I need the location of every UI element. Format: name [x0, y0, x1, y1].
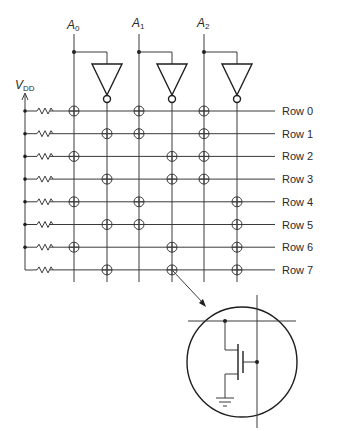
transistor-site	[102, 129, 112, 139]
transistor-site	[199, 151, 209, 161]
row-label-4: Row 4	[282, 196, 313, 208]
transistor-site	[134, 106, 144, 116]
transistor-site	[199, 106, 209, 116]
resistor-icon	[33, 153, 53, 159]
transistor-site	[232, 242, 242, 252]
resistor-icon	[33, 108, 53, 114]
inverters	[72, 50, 252, 103]
row-label-0: Row 0	[282, 105, 313, 117]
transistor-site	[69, 106, 79, 116]
row-decoder-diagram: VDD A0 A1 A2 Row 0Row 1Row 2Row 3Row 4Ro…	[0, 0, 343, 431]
transistor-sites	[69, 106, 242, 275]
transistor-site	[134, 197, 144, 207]
magnifier-detail	[187, 295, 297, 428]
inverter-icon	[222, 64, 252, 95]
junction-dot	[23, 155, 27, 159]
resistor-icon	[33, 244, 53, 250]
transistor-site	[167, 242, 177, 252]
transistor-site	[232, 220, 242, 230]
inverter-icon	[157, 64, 187, 95]
transistor-site	[232, 197, 242, 207]
transistor-site	[102, 174, 112, 184]
junction-dot	[23, 177, 27, 181]
address-label-a2: A2	[196, 16, 210, 31]
address-label-a0: A0	[66, 18, 80, 33]
vdd-label: VDD	[15, 78, 35, 93]
transistor-site	[134, 220, 144, 230]
transistor-site	[69, 242, 79, 252]
row-label-1: Row 1	[282, 128, 313, 140]
row-label-2: Row 2	[282, 150, 313, 162]
transistor-site	[69, 151, 79, 161]
row-label-7: Row 7	[282, 264, 313, 276]
magnifier-circle	[187, 307, 297, 417]
row-labels: Row 0Row 1Row 2Row 3Row 4Row 5Row 6Row 7	[282, 105, 313, 276]
row-label-3: Row 3	[282, 173, 313, 185]
vdd-rail	[22, 93, 33, 270]
inverter-icon	[92, 64, 122, 95]
row-label-5: Row 5	[282, 219, 313, 231]
transistor-site	[134, 129, 144, 139]
junction-dot	[23, 132, 27, 136]
resistor-icon	[33, 176, 53, 182]
junction-dot	[23, 109, 27, 113]
transistor-site	[232, 265, 242, 275]
junction-dot	[23, 223, 27, 227]
ground-icon	[216, 398, 234, 406]
magnifier-pointer	[173, 271, 206, 307]
transistor-site	[167, 151, 177, 161]
transistor-site	[102, 220, 112, 230]
row-label-6: Row 6	[282, 241, 313, 253]
transistor-site	[102, 265, 112, 275]
transistor-site	[199, 174, 209, 184]
resistor-icon	[33, 222, 53, 228]
transistor-site	[199, 129, 209, 139]
junction-dot	[23, 200, 27, 204]
resistor-icon	[33, 267, 53, 273]
junction-dot	[23, 245, 27, 249]
transistor-site	[167, 174, 177, 184]
pullup-resistors	[23, 108, 53, 273]
resistor-icon	[33, 199, 53, 205]
address-label-a1: A1	[131, 16, 145, 31]
transistor-site	[69, 197, 79, 207]
resistor-icon	[33, 131, 53, 137]
